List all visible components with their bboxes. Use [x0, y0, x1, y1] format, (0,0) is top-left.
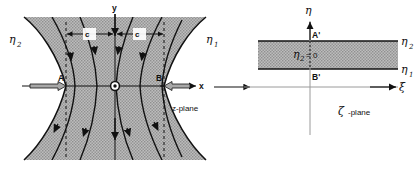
strip-eta1-label: η 1: [401, 63, 413, 79]
point-b-label: B: [156, 73, 162, 83]
eta2-boundary-label: η 2: [9, 33, 22, 49]
zeta-plane-panel: η ξ η 2 η 1 A' B' η 2 = 0: [244, 4, 414, 135]
eta2-boundary-label-sub: 2: [16, 41, 22, 49]
strip-eta1-label-greek: η: [401, 63, 408, 76]
point-a-prime-label: A': [312, 30, 320, 40]
zeta-plane-label-greek: ζ: [338, 105, 345, 118]
eta1-boundary-label: η 1: [206, 33, 218, 49]
dimension-c-right-label: c: [135, 30, 140, 39]
z-plane-panel: y x: [9, 3, 218, 160]
z-plane-label: z-plane: [172, 104, 199, 113]
strip-eta2-label: η 2: [401, 35, 414, 51]
eta-axis-label: η: [305, 4, 312, 17]
xi-axis-label: ξ: [399, 81, 406, 94]
eta1-boundary-label-sub: 1: [214, 41, 218, 49]
zeta-plane-label: ζ -plane: [338, 105, 371, 118]
strip-eta2-label-sub: 2: [408, 43, 414, 51]
figure-root: y x: [0, 0, 420, 176]
origin-dot-icon: [111, 82, 120, 91]
dimension-c-left-label: c: [85, 30, 90, 39]
strip-eta2-label-greek: η: [401, 35, 408, 48]
point-b-prime-label: B': [312, 72, 320, 82]
point-a-label: A: [58, 73, 64, 83]
conformal-map-figure: y x: [0, 0, 420, 176]
zeta-plane-label-suffix: -plane: [348, 108, 371, 117]
strip-interior-sub: 2: [299, 55, 305, 63]
eta1-boundary-label-greek: η: [206, 33, 213, 46]
strip-interior-equals: = 0: [306, 51, 318, 60]
x-axis-label: x: [199, 81, 204, 91]
strip-interior-greek: η: [293, 48, 300, 61]
strip-eta1-label-sub: 1: [409, 71, 413, 79]
eta2-boundary-label-greek: η: [9, 33, 16, 46]
y-axis-label: y: [112, 3, 117, 13]
zeta-strip-region: [258, 41, 398, 69]
